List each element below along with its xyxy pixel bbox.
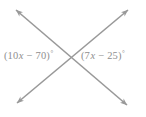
angle-label-right: (7x − 25)° [81,51,125,62]
angle-label-left-operator: − [27,50,33,61]
angle-label-right-operator: − [98,50,104,61]
angle-label-left-coefficient: 10 [8,50,19,61]
vertical-angles-diagram: (10x − 70)° (7x − 25)° [0,0,146,117]
angle-label-right-degree-symbol: ° [122,49,125,57]
angle-label-right-variable: x [90,50,96,61]
angle-label-right-close-paren: ) [118,50,122,61]
angle-label-left-variable: x [18,50,24,61]
angle-label-right-constant: 25 [107,50,118,61]
angle-label-left-degree-symbol: ° [50,49,53,57]
angle-label-left: (10x − 70)° [4,51,53,62]
angle-label-left-constant: 70 [36,50,47,61]
